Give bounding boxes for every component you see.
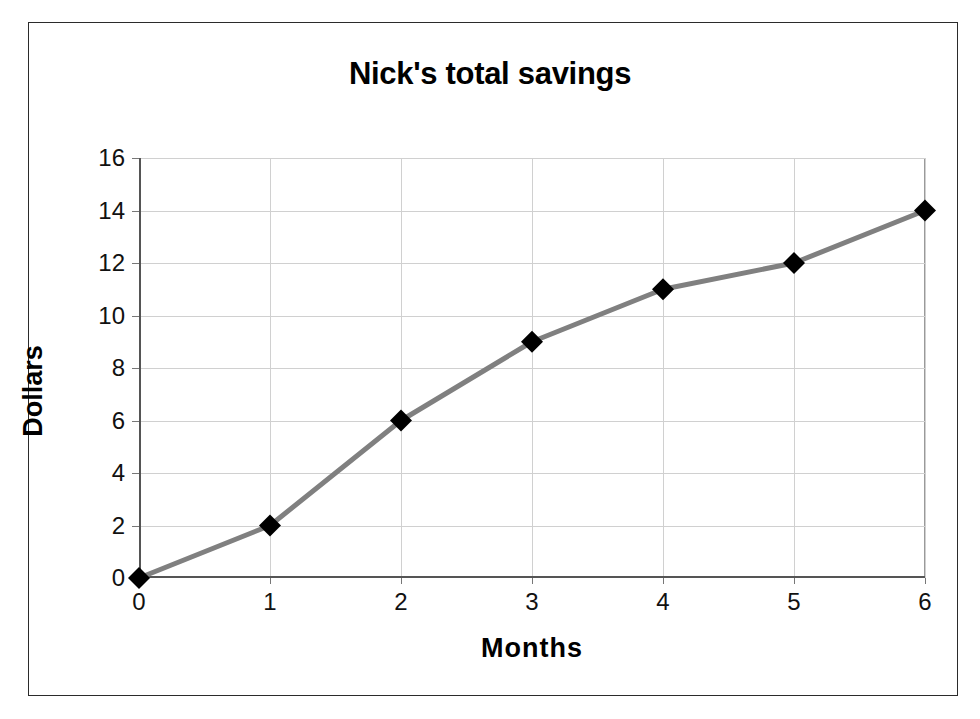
x-tick-mark — [532, 578, 533, 584]
x-axis-title: Months — [139, 633, 925, 664]
y-tick-label: 12 — [98, 249, 125, 277]
x-tick-label: 4 — [656, 588, 669, 616]
y-tick-mark — [132, 368, 139, 369]
x-tick-label: 5 — [787, 588, 800, 616]
y-axis-title: Dollars — [18, 296, 49, 486]
x-tick-label: 6 — [918, 588, 931, 616]
y-tick-label: 8 — [112, 354, 125, 382]
data-point-marker — [521, 331, 543, 353]
x-tick-mark — [794, 578, 795, 584]
y-tick-mark — [132, 421, 139, 422]
y-tick-mark — [132, 316, 139, 317]
x-tick-label: 2 — [394, 588, 407, 616]
series-line — [139, 211, 925, 579]
x-tick-mark — [925, 578, 926, 584]
x-tick-label: 0 — [132, 588, 145, 616]
data-point-marker — [783, 252, 805, 274]
x-tick-label: 3 — [525, 588, 538, 616]
data-point-marker — [652, 278, 674, 300]
chart-figure: Nick's total savings Dollars Months 0246… — [0, 0, 980, 719]
y-tick-label: 16 — [98, 144, 125, 172]
series-markers — [128, 200, 936, 590]
y-tick-label: 10 — [98, 302, 125, 330]
x-tick-mark — [401, 578, 402, 584]
y-tick-mark — [132, 473, 139, 474]
y-tick-label: 0 — [112, 564, 125, 592]
plot-area: 0246810121416 0123456 — [139, 158, 925, 578]
data-series — [139, 158, 925, 578]
y-tick-label: 6 — [112, 407, 125, 435]
x-tick-mark — [663, 578, 664, 584]
x-tick-mark — [270, 578, 271, 584]
chart-title: Nick's total savings — [0, 56, 980, 92]
y-tick-mark — [132, 526, 139, 527]
x-tick-label: 1 — [263, 588, 276, 616]
y-tick-label: 4 — [112, 459, 125, 487]
y-tick-mark — [132, 211, 139, 212]
y-tick-label: 14 — [98, 197, 125, 225]
y-tick-mark — [132, 158, 139, 159]
y-tick-label: 2 — [112, 512, 125, 540]
y-tick-mark — [132, 263, 139, 264]
